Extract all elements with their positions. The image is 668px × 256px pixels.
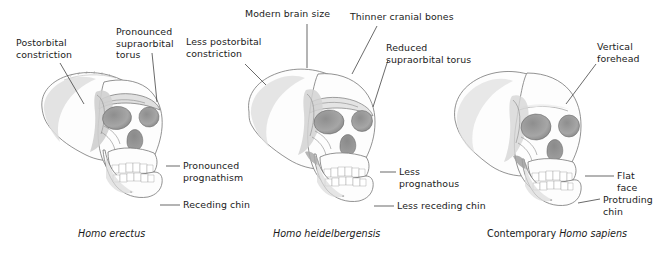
label-reduced-supraorbital-torus: Reduced supraorbital torus — [386, 42, 490, 65]
hominin-comparison-figure — [0, 0, 668, 256]
caption-homo-sapiens: Contemporary Homo sapiens — [487, 228, 627, 239]
label-pronounced-supraorbital-torus: Pronounced supraorbital torus — [116, 26, 192, 61]
caption-homo-heidelbergensis: Homo heidelbergensis — [273, 228, 380, 239]
caption-sapiens-prefix: Contemporary — [487, 228, 559, 239]
label-receding-chin: Receding chin — [183, 199, 273, 211]
caption-sapiens-species: Homo sapiens — [559, 228, 627, 239]
label-postorbital-constriction: Postorbital constriction — [16, 37, 92, 60]
label-less-postorbital-constriction: Less postorbital constriction — [186, 36, 290, 59]
caption-homo-erectus: Homo erectus — [78, 228, 145, 239]
label-pronounced-prognathism: Pronounced prognathism — [183, 160, 261, 183]
skull-homo-heidelbergensis — [249, 69, 375, 201]
label-vertical-forehead: Vertical forehead — [597, 41, 659, 64]
label-protruding-chin: Protruding chin — [603, 194, 665, 217]
label-thinner-cranial-bones: Thinner cranial bones — [350, 11, 476, 23]
skull-homo-sapiens — [455, 71, 582, 205]
label-less-receding-chin: Less receding chin — [397, 200, 497, 212]
label-modern-brain-size: Modern brain size — [245, 8, 365, 20]
skull-homo-erectus — [42, 71, 162, 198]
label-less-prognathous: Less prognathous — [399, 166, 469, 189]
label-flat-face: Flat face — [617, 170, 661, 193]
